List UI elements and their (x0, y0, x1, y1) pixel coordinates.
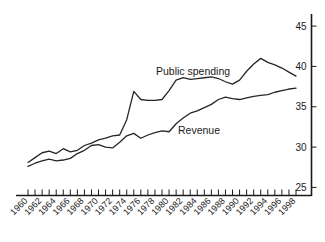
x-tick-label-group: 1960196219641966196819701972197419761978… (8, 196, 297, 217)
chart-container: 2530354045 19601962196419661968197019721… (0, 0, 325, 242)
series-annotation-revenue: Revenue (178, 124, 220, 136)
y-tick-label: 35 (295, 101, 307, 112)
annotation-group: Public spendingRevenue (156, 65, 230, 136)
series-annotation-public-spending: Public spending (156, 65, 230, 77)
y-tick-group: 2530354045 (295, 21, 316, 193)
x-tick-group (28, 190, 296, 196)
y-tick-label: 30 (295, 142, 307, 153)
x-axis (16, 190, 312, 196)
y-tick-label: 25 (295, 182, 307, 193)
y-tick-label: 40 (295, 61, 307, 72)
line-chart: 2530354045 19601962196419661968197019721… (0, 0, 325, 242)
y-tick-label: 45 (295, 21, 307, 32)
y-axis: 2530354045 (295, 14, 316, 196)
